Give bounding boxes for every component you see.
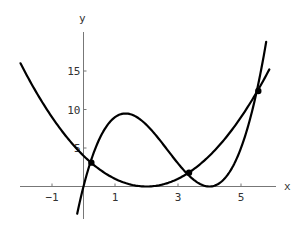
function-plot: x y −113551015 xyxy=(0,0,305,229)
axis-ticks: −113551015 xyxy=(45,65,244,204)
x-tick-label: 1 xyxy=(112,191,119,204)
intersection-point xyxy=(255,88,261,94)
intersection-point xyxy=(88,159,94,165)
y-axis-label: y xyxy=(79,12,86,25)
x-tick-label: 5 xyxy=(238,191,245,204)
intersection-point xyxy=(186,169,192,175)
y-tick-label: 15 xyxy=(67,65,80,78)
x-tick-label: 3 xyxy=(175,191,182,204)
x-tick-label: −1 xyxy=(45,191,58,204)
cubic-curve xyxy=(77,42,266,214)
curves xyxy=(21,42,270,214)
x-axis-label: x xyxy=(284,180,291,193)
y-tick-label: 10 xyxy=(67,104,80,117)
